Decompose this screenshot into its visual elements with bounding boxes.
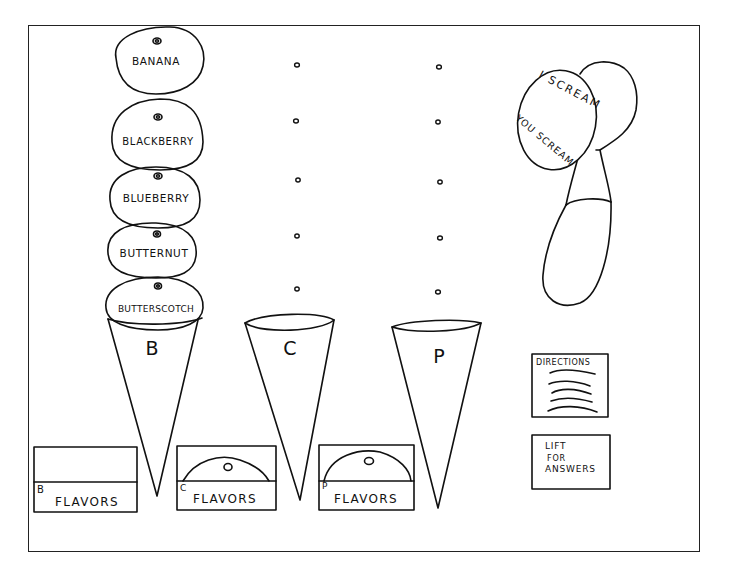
slot-c-1[interactable] [292,60,302,70]
directions-card[interactable] [532,354,608,417]
scoop-label-butternut: BUTTERNUT [120,247,189,259]
slot-p-2[interactable] [433,117,443,127]
slot-p-4[interactable] [435,233,445,243]
lift-for-answers-flap[interactable] [532,435,610,489]
slot-dots [294,63,443,294]
flavor-box-p[interactable] [319,445,414,510]
slot-p-3[interactable] [435,177,445,187]
scoop-label-blueberry: BLUEBERRY [123,192,189,204]
slot-c-2[interactable] [291,116,301,126]
scoop-label-banana: BANANA [132,55,180,67]
slot-c-5[interactable] [292,284,302,294]
slot-p-5[interactable] [433,287,443,297]
scoop-blackberry[interactable] [112,99,204,170]
slot-p-1[interactable] [434,62,444,72]
scoop-label-blackberry: BLACKBERRY [122,136,193,147]
slot-c-3[interactable] [293,175,303,185]
ice-cream-scooper[interactable] [518,60,638,310]
flavor-box-c[interactable] [177,446,276,510]
flavor-box-b[interactable] [34,447,137,512]
scoop-label-butterscotch: BUTTERSCOTCH [118,304,194,314]
slot-c-4[interactable] [292,231,302,241]
